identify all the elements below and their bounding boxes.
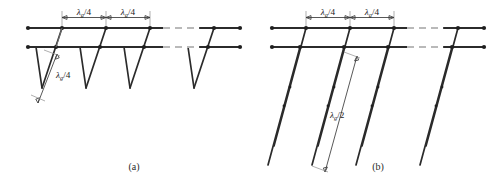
figure-container: λg/4 λg/4 (0, 0, 503, 183)
panel-b-stubs (268, 28, 458, 165)
panel-a: λg/4 λg/4 (26, 7, 242, 173)
panel-a-spacing-dim-1: λg/4 (62, 7, 106, 19)
panel-b-spacing-label-2: λg/4 (364, 7, 380, 18)
panel-b-spacing-dim-2: λg/4 (350, 7, 394, 19)
panel-a-spacing-dim-2: λg/4 (106, 7, 150, 19)
panel-a-stub-length-label: λg/4 (55, 70, 71, 81)
panel-a-stub-4 (188, 28, 214, 88)
panel-a-stub-length-dim: λg/4 (31, 28, 71, 103)
panel-a-dimension-extensions (62, 11, 150, 28)
panel-b-caption: (b) (372, 161, 384, 173)
panel-a-spacing-label-1: λg/4 (76, 7, 92, 18)
panel-a-stub-3 (124, 28, 150, 88)
panel-b-spacing-dim-1: λg/4 (306, 7, 350, 19)
stub-filter-figure: λg/4 λg/4 (0, 0, 503, 183)
panel-b-stub-length-dim: λg/2 (312, 52, 360, 172)
panel-a-stub-2 (80, 28, 106, 88)
panel-b-dimension-extensions (306, 11, 394, 28)
panel-b-spacing-label-1: λg/4 (320, 7, 336, 18)
panel-b: λg/4 λg/4 (268, 7, 486, 173)
panel-b-stub-length-label: λg/2 (329, 110, 345, 121)
panel-a-spacing-label-2: λg/4 (120, 7, 136, 18)
panel-a-caption: (a) (128, 161, 139, 173)
